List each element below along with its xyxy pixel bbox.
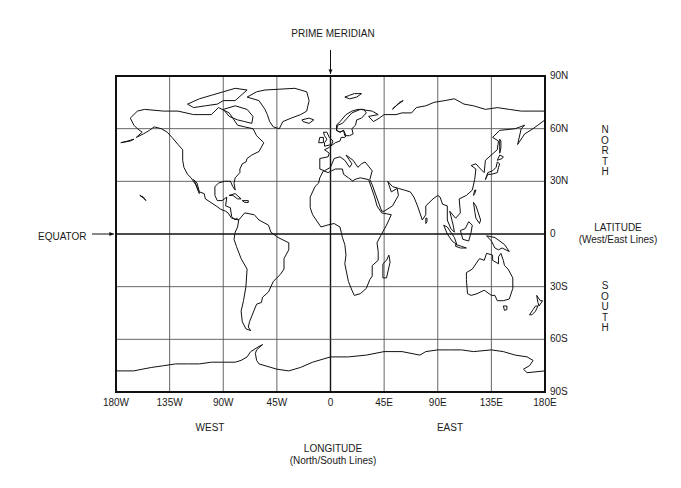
latitude-tick-label: 30N	[550, 175, 568, 186]
longitude-title: LONGITUDE	[283, 443, 383, 454]
coastline-java	[456, 245, 467, 249]
latitude-tick-label: 30S	[550, 281, 568, 292]
latitude-tick-label: 90N	[550, 70, 568, 81]
latitude-title: LATITUDE	[568, 222, 668, 233]
coastline-australia	[466, 253, 512, 300]
coastline-arctic-islands	[188, 88, 248, 107]
east-label: EAST	[420, 422, 480, 433]
latitude-tick-label: 60S	[550, 333, 568, 344]
longitude-subtitle: (North/South Lines)	[273, 455, 393, 466]
coastline-new-zealand-south	[530, 306, 538, 315]
north-label: NORTH	[599, 125, 611, 178]
longitude-tick-label: 135W	[150, 397, 190, 408]
longitude-tick-label: 45W	[257, 397, 297, 408]
coastline-new-guinea	[487, 236, 510, 252]
coastline-hokkaido	[497, 155, 503, 160]
equator-arrow-arrowhead-icon	[109, 232, 114, 236]
prime-meridian-label: PRIME MERIDIAN	[273, 28, 393, 39]
latitude-tick-label: 0	[550, 228, 556, 239]
longitude-tick-label: 135E	[471, 397, 511, 408]
longitude-tick-label: 180E	[525, 397, 565, 408]
coastline-greenland	[247, 88, 309, 128]
coastline-hispaniola	[242, 201, 248, 203]
coastline-philippines	[474, 202, 481, 223]
coastline-iceland	[302, 118, 314, 123]
coastline-taiwan	[474, 190, 476, 195]
coastline-south-america	[234, 213, 289, 331]
coastline-baffin	[223, 106, 253, 124]
coastline-north-america	[130, 108, 263, 220]
longitude-tick-label: 180W	[96, 397, 136, 408]
latitude-subtitle: (West/East Lines)	[568, 234, 668, 245]
latitude-tick-label: 90S	[550, 386, 568, 397]
latitude-tick-label: 60N	[550, 123, 568, 134]
west-label: WEST	[180, 422, 240, 433]
coastline-japan	[485, 162, 499, 180]
coastline-novaya-zemlya	[393, 101, 404, 110]
coastline-ireland	[319, 137, 324, 142]
graticule	[116, 76, 545, 392]
longitude-tick-label: 45E	[364, 397, 404, 408]
equator-label: EQUATOR	[38, 231, 87, 242]
annotation-arrows	[92, 50, 332, 236]
coastline-borneo	[460, 222, 472, 241]
coastline-sakhalin	[500, 139, 501, 153]
coastline-svalbard	[345, 94, 362, 99]
coastline-tasmania	[503, 306, 507, 310]
coastline-hawaii	[140, 195, 146, 200]
coastline-aleutians	[121, 139, 134, 143]
coastline-cuba	[229, 194, 241, 199]
coastline-new-zealand-north	[537, 295, 543, 306]
south-label: SOUTH	[599, 281, 611, 334]
longitude-tick-label: 0	[311, 397, 351, 408]
longitude-tick-label: 90W	[203, 397, 243, 408]
longitude-tick-label: 90E	[418, 397, 458, 408]
coastline-sri-lanka	[426, 218, 427, 223]
coastline-great-britain	[323, 132, 333, 146]
coastline-eurasia	[320, 99, 545, 232]
prime-meridian-arrow-arrowhead-icon	[329, 69, 333, 74]
coastline-africa	[310, 169, 391, 295]
